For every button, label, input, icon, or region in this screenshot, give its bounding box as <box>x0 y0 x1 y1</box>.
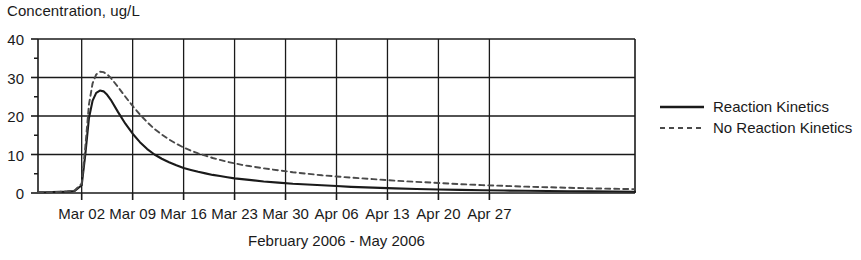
x-tick-label: Apr 13 <box>365 206 409 221</box>
legend-item-no-reaction-kinetics[interactable]: No Reaction Kinetics <box>660 117 852 138</box>
x-tick-label: Mar 09 <box>109 206 156 221</box>
chart-figure: Concentration, ug/L 010203040 Mar 02Mar … <box>0 0 861 260</box>
y-tick-label: 0 <box>0 186 24 201</box>
chart-legend: Reaction Kinetics No Reaction Kinetics <box>660 96 852 138</box>
x-tick-label: Mar 02 <box>58 206 105 221</box>
x-tick-label: Apr 20 <box>416 206 460 221</box>
y-tick-label: 30 <box>0 71 24 86</box>
legend-swatch-solid-icon <box>660 102 704 112</box>
y-tick-label: 40 <box>0 32 24 47</box>
legend-swatch-dashed-icon <box>660 123 704 133</box>
x-tick-label: Apr 27 <box>467 206 511 221</box>
x-tick-label: Mar 23 <box>211 206 258 221</box>
x-tick-label: Mar 16 <box>160 206 207 221</box>
y-tick-label: 10 <box>0 148 24 163</box>
legend-label-no-reaction-kinetics: No Reaction Kinetics <box>713 120 852 135</box>
legend-item-reaction-kinetics[interactable]: Reaction Kinetics <box>660 96 852 117</box>
x-tick-label: Mar 30 <box>262 206 309 221</box>
x-axis-title: February 2006 - May 2006 <box>38 232 635 249</box>
legend-label-reaction-kinetics: Reaction Kinetics <box>713 99 829 114</box>
x-tick-label: Apr 06 <box>314 206 358 221</box>
y-tick-label: 20 <box>0 109 24 124</box>
